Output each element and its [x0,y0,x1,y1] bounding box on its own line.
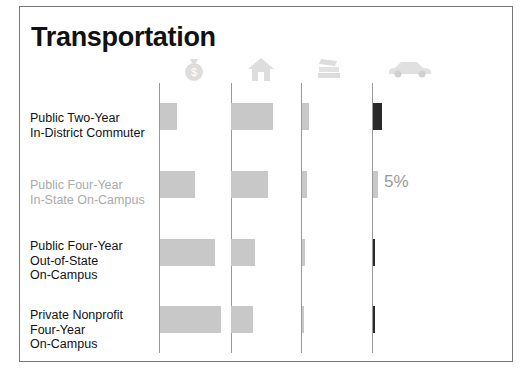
bar-room-board [231,306,253,333]
svg-text:$: $ [191,66,197,78]
row-label: Private NonprofitFour-YearOn-Campus [30,308,123,352]
chart-title: Transportation [31,22,216,53]
bar-books [302,171,307,198]
house-icon [241,54,281,84]
row-label: Public Two-YearIn-District Commuter [30,111,145,140]
bar-tuition [160,239,215,266]
bar-room-board [231,103,273,130]
row-label-highlighted: Public Four-YearIn-State On-Campus [30,178,145,207]
bar-room-board [231,171,268,198]
books-icon [309,54,349,84]
row-label: Public Four-YearOut-of-StateOn-Campus [30,239,123,283]
bar-books [302,306,304,333]
bar-tuition [160,103,177,130]
annotation-percent: 5% [384,172,409,192]
bar-transportation [373,171,378,198]
bar-room-board [231,239,255,266]
bar-books [302,239,305,266]
bar-transportation [373,103,382,130]
bar-tuition [160,306,221,333]
bar-transportation [373,306,375,333]
bar-books [302,103,309,130]
bar-tuition [160,171,195,198]
bar-transportation [373,239,375,266]
car-icon [385,54,435,84]
money-bag-icon: $ [174,54,214,84]
